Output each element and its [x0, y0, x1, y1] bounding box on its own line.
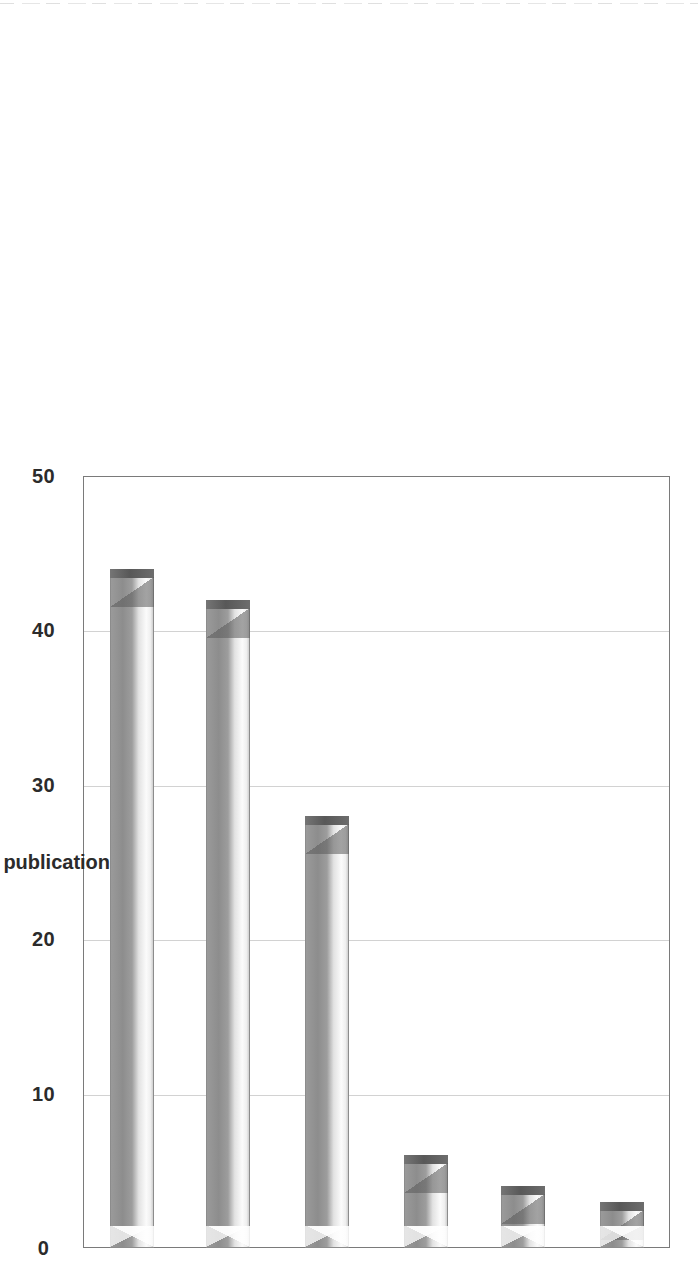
bar-base-bevel [110, 1226, 154, 1248]
category-label-6: Biofuel production planning/supply chain… [110, 1270, 155, 1278]
gridline-10 [84, 1095, 669, 1096]
bar-5[interactable] [206, 600, 250, 1248]
bar-corner-shade [501, 1194, 545, 1224]
bar-6[interactable] [110, 569, 154, 1248]
bar-corner-shade [206, 608, 250, 638]
bar-body [305, 816, 349, 1248]
bar-base-bevel [305, 1226, 349, 1248]
bar-body [110, 569, 154, 1248]
tick-label-50: 50 [32, 465, 55, 488]
gridline-20 [84, 940, 669, 941]
bar-base-bevel [501, 1226, 545, 1248]
bar-chart: 01020304050 Number of publications Biofu… [0, 0, 698, 1278]
tick-label-20: 20 [32, 928, 55, 951]
bar-body [206, 600, 250, 1248]
category-label-5: Biomass and biofuel transportation plann… [217, 1270, 239, 1278]
bar-base-bevel [404, 1226, 448, 1248]
bar-4[interactable] [305, 816, 349, 1248]
bar-3[interactable] [404, 1155, 448, 1248]
bar-2[interactable] [501, 1186, 545, 1248]
category-label-4: Inventory planning [316, 1270, 338, 1278]
plot-area [83, 476, 670, 1248]
category-label-1: Biofuel pricing/ Demand forecasting [611, 1270, 633, 1278]
tick-label-0: 0 [38, 1237, 50, 1260]
tick-label-10: 10 [32, 1082, 55, 1105]
tick-label-30: 30 [32, 773, 55, 796]
rotated-chart-stage: 01020304050 Number of publications Biofu… [0, 0, 698, 1278]
bar-base-bevel [206, 1226, 250, 1248]
category-label-3: Harvest and collection planning [415, 1270, 437, 1278]
bar-corner-shade [305, 824, 349, 854]
bar-base-bevel [600, 1226, 644, 1248]
bar-corner-shade [404, 1163, 448, 1193]
bar-corner-shade [110, 577, 154, 607]
gridline-40 [84, 631, 669, 632]
bar-1[interactable] [600, 1202, 644, 1248]
tick-label-40: 40 [32, 619, 55, 642]
gridline-30 [84, 786, 669, 787]
category-label-2: Biorefinery process synthesis and design [512, 1270, 534, 1278]
